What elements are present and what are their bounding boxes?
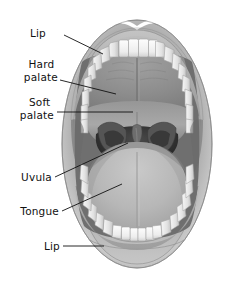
label-soft-palate: Soft palate	[20, 96, 54, 121]
label-hard-palate-line2: palate	[24, 71, 58, 83]
label-hard-palate: Hard palate	[24, 58, 58, 83]
upper-incisors	[119, 39, 158, 57]
label-uvula: Uvula	[21, 171, 52, 183]
label-soft-palate-line2: palate	[20, 109, 54, 121]
label-hard-palate-line1: Hard	[29, 58, 55, 70]
labels-group: Lip Hard palate Soft palate Uvula Tongue…	[19, 27, 60, 252]
label-lip-lower: Lip	[44, 240, 60, 252]
label-soft-palate-line1: Soft	[29, 96, 51, 108]
label-lip-upper: Lip	[30, 27, 46, 39]
oral-cavity-diagram: Lip Hard palate Soft palate Uvula Tongue…	[0, 0, 226, 283]
label-tongue: Tongue	[19, 205, 59, 217]
